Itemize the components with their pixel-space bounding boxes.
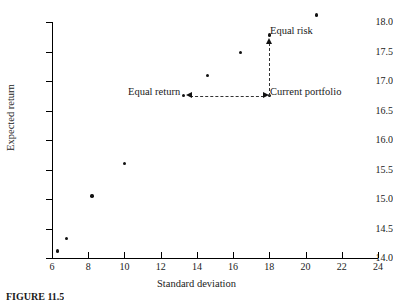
y-axis-line <box>52 22 53 259</box>
annotation-equal-risk: Equal risk <box>270 25 313 36</box>
y-axis-title: Expected return <box>5 53 16 183</box>
data-point <box>90 194 93 197</box>
x-tick <box>197 252 198 258</box>
data-point <box>239 51 242 54</box>
x-tick-label: 10 <box>109 262 139 272</box>
x-tick-label: 16 <box>218 262 248 272</box>
y-tick-label: 15.0 <box>349 194 393 204</box>
y-tick <box>46 140 52 141</box>
x-tick <box>52 252 53 258</box>
y-tick-label: 17.0 <box>349 76 393 86</box>
figure-scatter-efficient-frontier: 14.0 14.5 15.0 15.5 16.0 16.5 17.0 17.5 … <box>0 0 393 301</box>
data-point-equal-return <box>182 94 185 97</box>
data-point <box>315 13 318 16</box>
x-tick-label: 8 <box>73 262 103 272</box>
x-tick <box>161 252 162 258</box>
y-tick <box>46 229 52 230</box>
y-tick-label: 16.5 <box>349 106 393 116</box>
y-tick-label: 17.5 <box>349 47 393 57</box>
x-tick <box>378 252 379 258</box>
annotation-equal-return: Equal return <box>128 86 180 97</box>
y-tick <box>46 258 52 259</box>
annotation-current-portfolio: Current portfolio <box>270 86 341 97</box>
arrow-left-icon <box>186 92 192 98</box>
x-tick-label: 12 <box>146 262 176 272</box>
x-tick <box>124 252 125 258</box>
y-tick <box>46 199 52 200</box>
x-axis-title: Standard deviation <box>0 278 393 289</box>
x-tick <box>233 252 234 258</box>
x-tick <box>88 252 89 258</box>
x-tick-label: 24 <box>363 262 393 272</box>
data-point <box>123 162 126 165</box>
y-tick-label: 14.5 <box>349 224 393 234</box>
x-tick <box>342 252 343 258</box>
y-tick <box>46 22 52 23</box>
connector-horizontal-dashed <box>190 96 264 97</box>
x-tick-label: 20 <box>291 262 321 272</box>
x-tick <box>269 252 270 258</box>
y-tick-label: 16.0 <box>349 135 393 145</box>
x-tick-label: 6 <box>37 262 67 272</box>
y-tick <box>46 52 52 53</box>
x-axis-line <box>52 258 378 259</box>
y-tick <box>46 81 52 82</box>
data-point <box>56 249 59 252</box>
y-tick <box>46 170 52 171</box>
data-point <box>206 74 209 77</box>
y-tick <box>46 111 52 112</box>
y-tick-label: 18.0 <box>349 17 393 27</box>
arrow-right-icon <box>263 92 269 98</box>
figure-caption: FIGURE 11.5 <box>6 292 64 301</box>
arrow-up-icon <box>266 38 272 44</box>
y-tick-label: 15.5 <box>349 165 393 175</box>
x-tick-label: 18 <box>254 262 284 272</box>
x-tick-label: 14 <box>182 262 212 272</box>
x-tick <box>306 252 307 258</box>
data-point <box>65 237 68 240</box>
x-tick-label: 22 <box>327 262 357 272</box>
